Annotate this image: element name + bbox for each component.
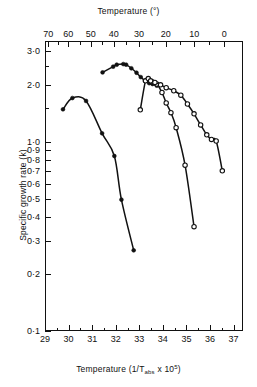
x-tick-bottom — [69, 325, 70, 331]
data-point — [112, 154, 116, 158]
x-minor-tick-bottom — [57, 328, 58, 332]
data-point — [132, 248, 136, 252]
y-tick-label: 0·7 — [8, 166, 40, 176]
y-tick-label: 0·1 — [8, 326, 40, 336]
bottom-axis-title-prefix: Temperature (1/T — [76, 364, 144, 374]
x-tick-bottom — [116, 325, 117, 331]
y-tick-label: 0·6 — [8, 179, 40, 189]
y-minor-tick — [45, 51, 49, 52]
y-tick — [45, 331, 51, 332]
data-point — [84, 99, 88, 103]
x-minor-tick-bottom — [175, 328, 176, 332]
x-minor-tick-bottom — [128, 328, 129, 332]
data-point — [124, 63, 128, 67]
x-minor-tick-bottom — [151, 328, 152, 332]
x-tick-top — [224, 41, 225, 47]
y-tick-label: 0·8 — [8, 155, 40, 165]
y-tick — [45, 274, 51, 275]
y-tick-label: 3·0 — [8, 46, 40, 56]
x-tick-label-bottom: 32 — [111, 334, 121, 344]
y-tick-label: 0·4 — [8, 212, 40, 222]
y-tick — [45, 199, 51, 200]
x-minor-tick-bottom — [104, 328, 105, 332]
data-point — [220, 169, 224, 173]
data-point — [129, 66, 133, 70]
x-tick-label-top: 70 — [43, 29, 53, 39]
data-point — [153, 80, 157, 84]
y-tick — [45, 142, 51, 143]
y-tick — [45, 241, 51, 242]
bottom-axis-title: Temperature (1/Tabs x 105) — [0, 364, 257, 375]
x-tick-label-bottom: 31 — [87, 334, 97, 344]
x-tick-bottom — [234, 325, 235, 331]
x-tick-top — [48, 41, 49, 47]
data-point — [164, 101, 168, 105]
data-curves-layer — [46, 42, 244, 332]
x-tick-bottom — [92, 325, 93, 331]
top-axis-title: Temperature (°) — [0, 6, 257, 16]
x-minor-tick-bottom — [198, 328, 199, 332]
y-tick — [45, 184, 51, 185]
x-tick-top — [194, 41, 195, 47]
data-point — [71, 96, 75, 100]
x-tick-top — [91, 41, 92, 47]
data-point — [214, 139, 218, 143]
y-tick — [45, 150, 51, 151]
series-line-series-3-steep-descent — [140, 78, 194, 227]
data-point — [120, 198, 124, 202]
y-tick — [45, 160, 51, 161]
x-minor-tick-top — [58, 41, 59, 45]
x-tick-label-bottom: 34 — [158, 334, 168, 344]
y-minor-tick — [45, 66, 49, 67]
y-minor-tick — [45, 108, 49, 109]
x-tick-bottom — [186, 325, 187, 331]
x-tick-bottom — [139, 325, 140, 331]
data-point — [138, 108, 142, 112]
x-tick-label-bottom: 30 — [64, 334, 74, 344]
data-point — [101, 70, 105, 74]
plot-area — [45, 41, 243, 331]
y-tick — [45, 171, 51, 172]
data-point — [172, 89, 176, 93]
x-minor-tick-top — [180, 41, 181, 45]
data-point — [179, 93, 183, 97]
x-tick-label-top: 30 — [134, 29, 144, 39]
series-group-series-1-psychrophile — [61, 96, 136, 252]
y-tick-label: 0·3 — [8, 236, 40, 246]
series-group-series-2-mesophile-upper — [101, 62, 159, 87]
x-minor-tick-top — [102, 41, 103, 45]
x-minor-tick-top — [80, 41, 81, 45]
series-line-series-1-psychrophile — [63, 97, 134, 251]
y-tick-label: 0·5 — [8, 194, 40, 204]
data-point — [61, 107, 65, 111]
x-minor-tick-bottom — [222, 328, 223, 332]
x-tick-label-top: 20 — [161, 29, 171, 39]
x-tick-label-top: 10 — [189, 29, 199, 39]
data-point — [205, 133, 209, 137]
data-point — [174, 125, 178, 129]
y-tick-label: 0·2 — [8, 269, 40, 279]
data-point — [158, 83, 162, 87]
y-tick — [45, 85, 51, 86]
data-point — [135, 71, 139, 75]
arrhenius-growth-rate-chart: Temperature (°) Temperature (1/Tabs x 10… — [0, 0, 257, 387]
data-point — [198, 123, 202, 127]
data-point — [115, 63, 119, 67]
data-point — [111, 65, 115, 69]
data-point — [100, 131, 104, 135]
series-group-series-3-steep-descent — [138, 76, 196, 229]
data-point — [183, 163, 187, 167]
x-tick-bottom — [210, 325, 211, 331]
x-tick-label-bottom: 35 — [181, 334, 191, 344]
data-point — [164, 86, 168, 90]
x-tick-top — [68, 41, 69, 47]
data-point — [185, 102, 189, 106]
data-point — [209, 137, 213, 141]
data-point — [192, 112, 196, 116]
x-tick-label-top: 50 — [86, 29, 96, 39]
x-minor-tick-bottom — [80, 328, 81, 332]
data-point — [169, 110, 173, 114]
x-tick-label-top: 40 — [109, 29, 119, 39]
x-tick-top — [166, 41, 167, 47]
x-minor-tick-top — [126, 41, 127, 45]
